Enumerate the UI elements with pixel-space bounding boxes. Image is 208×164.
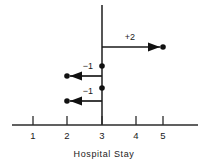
chart-canvas: +2 −1 −1 1 2 3 4 5 Hospital Stay: [0, 0, 208, 164]
data-point-x2-upper: [64, 73, 70, 79]
data-point-x5: [160, 44, 166, 50]
x-tick-label-1: 1: [30, 130, 35, 141]
x-tick-label-2: 2: [64, 130, 69, 141]
annotation-label-minus-one-lower: −1: [83, 86, 93, 96]
annotation-label-plus-two: +2: [125, 32, 135, 42]
hospital-stay-number-line-diagram: +2 −1 −1 1 2 3 4 5 Hospital Stay: [0, 0, 208, 164]
data-point-x2-lower: [64, 98, 70, 104]
x-tick-label-4: 4: [133, 130, 138, 141]
arrowhead-minus-one-lower: [70, 97, 82, 106]
arrowhead-plus-two: [148, 43, 160, 52]
x-tick-label-3: 3: [99, 130, 104, 141]
data-point-x3-upper: [99, 63, 105, 69]
arrowhead-minus-one-upper: [70, 72, 82, 81]
x-tick-label-5: 5: [160, 130, 165, 141]
x-axis-title: Hospital Stay: [74, 149, 135, 159]
annotation-label-minus-one-upper: −1: [83, 61, 93, 71]
data-point-x3-lower: [99, 85, 105, 91]
